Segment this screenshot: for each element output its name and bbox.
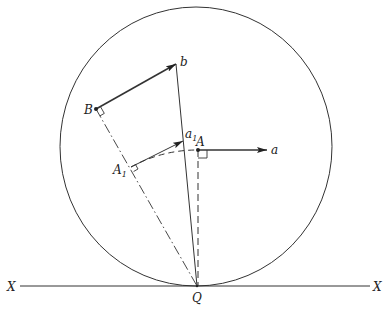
right-angle-mark-B	[100, 107, 104, 116]
label-Q: Q	[192, 291, 202, 305]
vector-Bb	[96, 64, 176, 109]
label-b: b	[180, 55, 188, 69]
point-B	[94, 107, 98, 111]
label-X-right: X	[372, 280, 382, 294]
label-X-left: X	[6, 280, 16, 294]
label-a: a	[271, 143, 278, 157]
arc-A1A	[131, 150, 198, 167]
label-A1: A1	[112, 163, 127, 179]
label-B: B	[83, 103, 93, 117]
line-bQ	[176, 64, 197, 286]
point-Q	[196, 285, 198, 287]
construction-diagram: b B a1 A A1 a Q X X	[0, 0, 390, 311]
vector-A1a1	[131, 141, 183, 167]
label-A: A	[195, 135, 205, 149]
line-BQ	[96, 109, 197, 286]
